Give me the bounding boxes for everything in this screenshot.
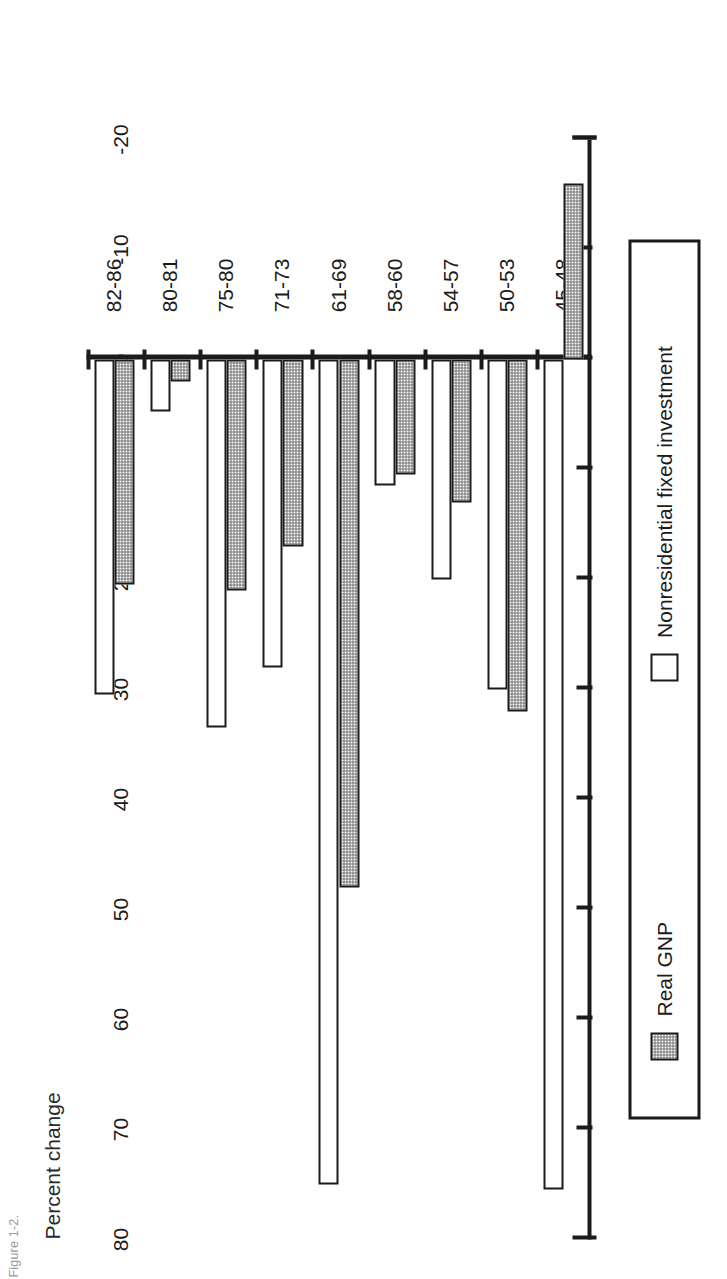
bar-nonresidential-fixed-investment bbox=[318, 359, 338, 1184]
category-label: 50-53 bbox=[494, 258, 518, 312]
category-tick bbox=[535, 349, 539, 369]
value-tick-label: 80 bbox=[108, 1227, 132, 1250]
legend-swatch-icon bbox=[650, 1032, 678, 1060]
value-axis-end-cap bbox=[572, 135, 596, 139]
bar-real-gnp bbox=[114, 359, 134, 585]
bar-nonresidential-fixed-investment bbox=[150, 359, 170, 411]
value-tick-label: 40 bbox=[108, 787, 132, 810]
bar-nonresidential-fixed-investment bbox=[206, 359, 226, 728]
category-tick bbox=[86, 349, 90, 369]
category-label: 82-86 bbox=[101, 258, 125, 312]
bar-nonresidential-fixed-investment bbox=[262, 359, 282, 667]
value-tick bbox=[576, 575, 592, 579]
value-tick bbox=[576, 795, 592, 799]
figure-caption: Figure 1-2. bbox=[6, 1214, 20, 1277]
legend-item-nonresidential-fixed-investment: Nonresidential fixed investment bbox=[650, 346, 678, 682]
category-tick bbox=[254, 349, 258, 369]
category-tick bbox=[479, 349, 483, 369]
value-tick-label: -20 bbox=[108, 124, 132, 154]
bar-nonresidential-fixed-investment bbox=[487, 359, 507, 689]
value-tick-label: 70 bbox=[108, 1117, 132, 1140]
bar-real-gnp bbox=[170, 359, 190, 381]
legend-swatch-icon bbox=[650, 653, 678, 681]
category-label: 71-73 bbox=[269, 258, 293, 312]
axis-title: Percent change bbox=[40, 1092, 64, 1239]
legend: Real GNP Nonresidential fixed investment bbox=[628, 239, 700, 1119]
bar-nonresidential-fixed-investment bbox=[543, 359, 563, 1190]
category-label: 61-69 bbox=[326, 258, 350, 312]
value-tick bbox=[572, 1235, 596, 1239]
bar-nonresidential-fixed-investment bbox=[94, 359, 114, 695]
value-tick-label: 60 bbox=[108, 1007, 132, 1030]
value-tick-label: 50 bbox=[108, 897, 132, 920]
zero-baseline bbox=[86, 354, 591, 359]
category-tick bbox=[310, 349, 314, 369]
value-tick bbox=[576, 905, 592, 909]
value-tick bbox=[576, 465, 592, 469]
category-tick bbox=[198, 349, 202, 369]
bar-real-gnp bbox=[563, 183, 583, 359]
value-tick bbox=[576, 1125, 592, 1129]
category-tick bbox=[367, 349, 371, 369]
bar-real-gnp bbox=[226, 359, 246, 590]
category-tick bbox=[423, 349, 427, 369]
bar-nonresidential-fixed-investment bbox=[431, 359, 451, 579]
category-label: 75-80 bbox=[213, 258, 237, 312]
legend-label-nonresidential-fixed-investment: Nonresidential fixed investment bbox=[652, 346, 676, 638]
bar-real-gnp bbox=[282, 359, 302, 546]
plot-area: 80706050403020100-10-20 45-4850-5354-575… bbox=[86, 44, 591, 1239]
value-tick bbox=[576, 1015, 592, 1019]
legend-item-real-gnp: Real GNP bbox=[650, 921, 678, 1060]
figure-stage: Figure 1-2. Percent change 8070605040302… bbox=[0, 0, 727, 1279]
category-tick bbox=[142, 349, 146, 369]
bar-real-gnp bbox=[507, 359, 527, 711]
category-label: 80-81 bbox=[157, 258, 181, 312]
category-label: 58-60 bbox=[382, 258, 406, 312]
bar-real-gnp bbox=[339, 359, 359, 887]
category-label: 54-57 bbox=[438, 258, 462, 312]
bar-real-gnp bbox=[395, 359, 415, 475]
bar-nonresidential-fixed-investment bbox=[374, 359, 394, 486]
legend-label-real-gnp: Real GNP bbox=[652, 921, 676, 1016]
value-tick bbox=[576, 685, 592, 689]
bar-real-gnp bbox=[451, 359, 471, 502]
